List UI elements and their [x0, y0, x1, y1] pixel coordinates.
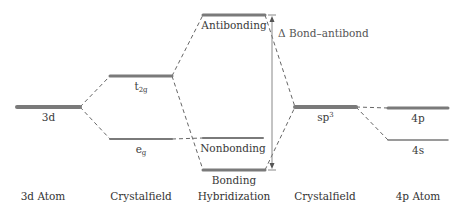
- dashed-connector: [172, 138, 203, 139]
- level-label-bonding: Bonding: [212, 175, 256, 186]
- level-label-antibonding: Antibonding: [201, 20, 266, 31]
- bond-antibond-gap-arrow: [268, 15, 276, 170]
- dashed-connector: [356, 107, 388, 140]
- level-label-4s: 4s: [412, 145, 424, 156]
- dashed-connector: [172, 76, 203, 170]
- level-label-3d: 3d: [42, 112, 55, 123]
- column-label-4p-atom: 4p Atom: [396, 191, 441, 202]
- column-label-crystalfield-left: Crystalfield: [110, 191, 172, 202]
- dashed-connector: [80, 107, 110, 139]
- bond-antibond-gap-label: Δ Bond–antibond: [278, 28, 369, 39]
- level-label-4p: 4p: [411, 113, 424, 124]
- level-label-nonbonding: Nonbonding: [200, 143, 266, 154]
- column-label-hybridization: Hybridization: [198, 191, 271, 202]
- level-label-eg: eg: [136, 144, 147, 157]
- dashed-connector: [356, 107, 388, 108]
- dashed-connector: [80, 76, 110, 107]
- column-label-crystalfield-right: Crystalfield: [294, 191, 356, 202]
- dashed-connector: [265, 107, 295, 170]
- level-label-sp3: sp3: [317, 112, 334, 123]
- column-label-3d-atom: 3d Atom: [21, 191, 66, 202]
- level-label-t2g: t2g: [134, 81, 147, 94]
- dashed-connector: [172, 15, 203, 76]
